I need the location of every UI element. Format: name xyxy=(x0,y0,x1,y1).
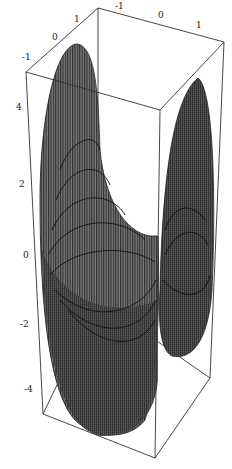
svg-text:-4: -4 xyxy=(24,384,33,394)
svg-text:2: 2 xyxy=(19,179,25,189)
axis-labels-z: 4 2 0 -2 -4 xyxy=(16,102,33,394)
surface-right-lobe xyxy=(159,78,213,357)
svg-text:1: 1 xyxy=(196,20,202,30)
svg-text:4: 4 xyxy=(16,102,22,112)
svg-text:0: 0 xyxy=(158,10,164,20)
svg-text:0: 0 xyxy=(52,32,58,42)
svg-text:1: 1 xyxy=(74,14,80,24)
svg-text:-1: -1 xyxy=(115,1,124,11)
surface-plot-3d: -1 0 1 -1 0 1 4 2 0 -2 -4 xyxy=(0,0,232,469)
svg-text:-2: -2 xyxy=(20,319,29,329)
svg-text:-1: -1 xyxy=(22,52,31,62)
svg-text:0: 0 xyxy=(23,250,29,260)
axis-labels-top-right: -1 0 1 xyxy=(115,1,202,30)
